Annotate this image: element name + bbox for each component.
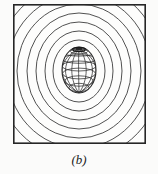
wireframe-sphere: [62, 47, 96, 93]
caption-label: (b): [71, 152, 86, 167]
figure-panel: (b): [0, 0, 158, 174]
contour-field-diagram: [0, 0, 158, 174]
figure-caption: (b): [0, 150, 158, 168]
